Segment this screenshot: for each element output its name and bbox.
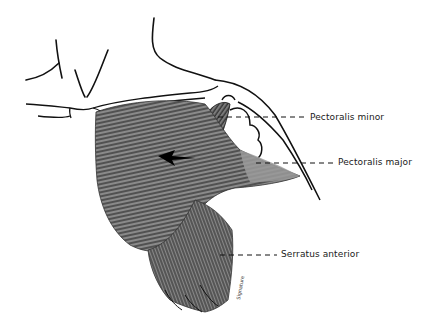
pectoralis-major-tendon — [240, 150, 300, 182]
neck-outline — [26, 18, 215, 97]
label-pectoralis-minor: Pectoralis minor — [310, 112, 384, 122]
artist-signature: Signature — [235, 275, 246, 300]
label-serratus-anterior: Serratus anterior — [281, 249, 359, 259]
label-pectoralis-major: Pectoralis major — [338, 157, 412, 167]
